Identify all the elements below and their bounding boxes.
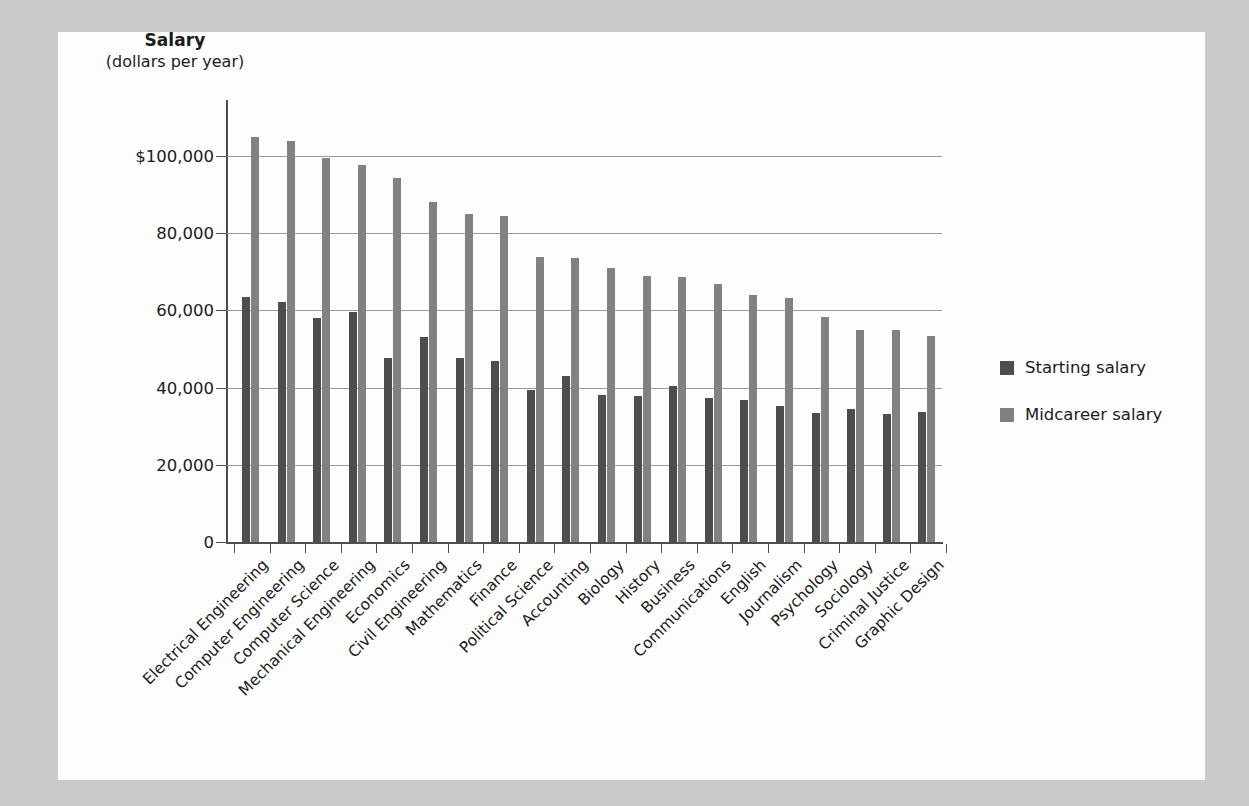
x-axis-tick-mark: [305, 544, 306, 553]
legend-swatch-starting-icon: [1000, 361, 1014, 375]
bar-starting-salary: [634, 396, 642, 542]
bar-starting-salary: [242, 297, 250, 542]
x-axis-tick-mark: [626, 544, 627, 553]
legend-entry-midcareer: Midcareer salary: [1000, 405, 1162, 424]
bar-midcareer-salary: [393, 178, 401, 542]
legend-label-midcareer: Midcareer salary: [1025, 405, 1162, 424]
legend-entry-starting: Starting salary: [1000, 358, 1162, 377]
bar-starting-salary: [847, 409, 855, 542]
plot-area: [227, 100, 942, 542]
x-axis-tick-mark: [910, 544, 911, 553]
bar-starting-salary: [491, 361, 499, 542]
gridline: [227, 156, 942, 157]
y-axis-tick-label: 40,000: [114, 378, 214, 397]
bar-midcareer-salary: [856, 330, 864, 542]
bar-starting-salary: [456, 358, 464, 542]
bar-midcareer-salary: [571, 258, 579, 542]
bar-starting-salary: [883, 414, 891, 542]
x-axis-tick-mark: [697, 544, 698, 553]
x-axis-tick-mark: [448, 544, 449, 553]
bar-midcareer-salary: [500, 216, 508, 542]
y-axis-tick-label: $100,000: [114, 147, 214, 166]
bar-starting-salary: [705, 398, 713, 542]
x-axis-tick-mark: [234, 544, 235, 553]
bar-midcareer-salary: [749, 295, 757, 542]
bar-starting-salary: [420, 337, 428, 542]
figure-frame: Salary (dollars per year) $100,00080,000…: [0, 0, 1249, 806]
gridline: [227, 465, 942, 466]
bar-midcareer-salary: [251, 137, 259, 542]
gridline: [227, 233, 942, 234]
legend-swatch-midcareer-icon: [1000, 408, 1014, 422]
legend-label-starting: Starting salary: [1025, 358, 1146, 377]
bar-midcareer-salary: [465, 214, 473, 542]
bar-midcareer-salary: [358, 165, 366, 543]
x-axis-tick-mark: [341, 544, 342, 553]
bar-starting-salary: [313, 318, 321, 542]
bar-midcareer-salary: [643, 276, 651, 542]
y-axis-tick-label: 80,000: [114, 224, 214, 243]
x-axis-tick-mark: [376, 544, 377, 553]
x-axis-tick-mark: [270, 544, 271, 553]
y-axis-tick-labels: $100,00080,00060,00040,00020,0000: [102, 0, 214, 806]
bar-midcareer-salary: [287, 141, 295, 542]
x-axis-tick-mark: [946, 544, 947, 553]
gridline: [227, 388, 942, 389]
bar-midcareer-salary: [607, 268, 615, 542]
bar-starting-salary: [812, 413, 820, 542]
y-axis-tick-label: 60,000: [114, 301, 214, 320]
x-axis-tick-mark: [590, 544, 591, 553]
bar-starting-salary: [669, 386, 677, 542]
x-axis-tick-mark: [732, 544, 733, 553]
x-axis-tick-mark: [804, 544, 805, 553]
bar-midcareer-salary: [714, 284, 722, 542]
x-axis-category-labels: Electrical EngineeringComputer Engineeri…: [227, 556, 987, 696]
bar-midcareer-salary: [536, 257, 544, 542]
bar-midcareer-salary: [429, 202, 437, 542]
y-axis-tick-label: 0: [114, 533, 214, 552]
bar-starting-salary: [384, 358, 392, 543]
x-axis-tick-mark: [412, 544, 413, 553]
bar-midcareer-salary: [927, 336, 935, 543]
x-axis-tick-mark: [839, 544, 840, 553]
chart-legend: Starting salary Midcareer salary: [1000, 358, 1162, 452]
gridline: [227, 310, 942, 311]
bar-starting-salary: [349, 312, 357, 542]
x-axis-tick-mark: [483, 544, 484, 553]
bar-midcareer-salary: [322, 158, 330, 542]
bar-starting-salary: [527, 390, 535, 542]
x-axis-tick-mark: [875, 544, 876, 553]
bar-starting-salary: [740, 400, 748, 542]
y-axis-tick-label: 20,000: [114, 455, 214, 474]
bar-starting-salary: [918, 412, 926, 542]
x-axis-tick-mark: [661, 544, 662, 553]
x-axis-line: [227, 542, 943, 544]
bar-starting-salary: [562, 376, 570, 542]
x-axis-tick-mark: [554, 544, 555, 553]
x-axis-tick-mark: [768, 544, 769, 553]
bar-midcareer-salary: [892, 330, 900, 542]
bar-starting-salary: [776, 406, 784, 542]
bar-starting-salary: [598, 395, 606, 542]
bar-midcareer-salary: [785, 298, 793, 542]
bar-starting-salary: [278, 302, 286, 542]
bar-midcareer-salary: [821, 317, 829, 542]
bar-midcareer-salary: [678, 277, 686, 542]
x-axis-tick-mark: [519, 544, 520, 553]
